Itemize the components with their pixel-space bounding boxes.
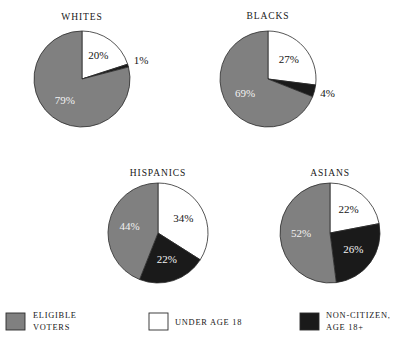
pie-value-label-non-citizen: 1% [134, 54, 149, 66]
four-pie-chart-figure: WHITES 20%1%79% BLACKS 27%4%69% HISPANIC… [0, 0, 401, 342]
pie-value-label-non-citizen: 4% [320, 87, 335, 99]
pie-value-label-eligible-voters: 69% [235, 87, 255, 99]
pie-value-label-under-age-18: 20% [88, 49, 108, 61]
pie-title-hispanics: HISPANICS [130, 168, 186, 178]
pie-value-label-under-age-18: 34% [173, 212, 193, 224]
pie-value-label-non-citizen: 22% [157, 253, 177, 265]
pie-title-blacks: BLACKS [247, 11, 290, 21]
legend-item-under-age-18: UNDER AGE 18 [149, 313, 242, 330]
legend-item-non-citizen: NON-CITIZEN, AGE 18+ [300, 311, 391, 332]
legend-swatch-eligible-voters [6, 313, 25, 330]
legend-swatch-non-citizen [300, 313, 319, 330]
pie-chart-whites: WHITES 20%1%79% [34, 12, 148, 127]
pie-value-label-under-age-18: 22% [338, 203, 358, 215]
pie-chart-blacks: BLACKS 27%4%69% [220, 11, 335, 127]
pie-slices-hispanics [108, 183, 208, 283]
legend-label-eligible-voters-line1: ELIGIBLE [33, 311, 77, 320]
pie-value-label-under-age-18: 27% [279, 53, 299, 65]
pie-value-label-eligible-voters: 52% [291, 227, 311, 239]
pie-slices-blacks [220, 31, 316, 127]
legend: ELIGIBLE VOTERS UNDER AGE 18 NON-CITIZEN… [6, 311, 391, 332]
pie-value-label-eligible-voters: 44% [119, 220, 139, 232]
pie-chart-hispanics: HISPANICS 34%22%44% [108, 168, 208, 283]
legend-label-non-citizen-line1: NON-CITIZEN, [326, 311, 391, 320]
legend-swatch-under-age-18 [149, 313, 168, 330]
legend-label-eligible-voters-line2: VOTERS [33, 323, 70, 332]
pie-title-asians: ASIANS [310, 168, 350, 178]
pie-value-label-eligible-voters: 79% [55, 94, 75, 106]
pie-value-label-non-citizen: 26% [343, 243, 363, 255]
pie-title-whites: WHITES [61, 12, 102, 22]
legend-label-under-age-18: UNDER AGE 18 [175, 318, 242, 327]
pie-slices-whites [34, 31, 130, 127]
legend-label-non-citizen-line2: AGE 18+ [326, 323, 364, 332]
pie-chart-asians: ASIANS 22%26%52% [280, 168, 380, 283]
legend-item-eligible-voters: ELIGIBLE VOTERS [6, 311, 77, 332]
